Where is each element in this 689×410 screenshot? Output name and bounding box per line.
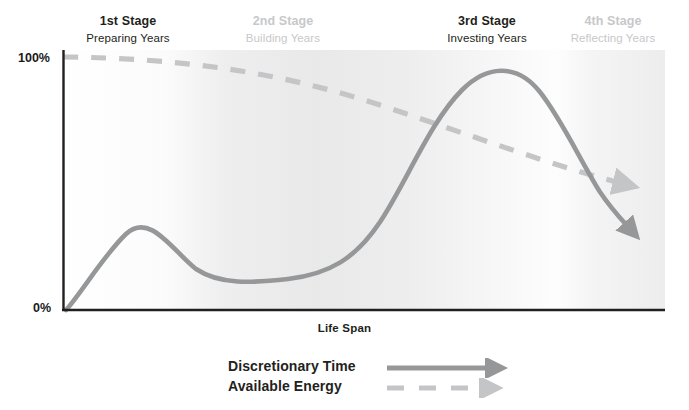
legend-item-available-energy: Available Energy	[228, 378, 528, 398]
plot-area	[0, 0, 689, 340]
legend-item-discretionary-time: Discretionary Time	[228, 358, 528, 378]
chart-legend: Discretionary Time Available Energy	[228, 358, 528, 398]
legend-label-available-energy: Available Energy	[228, 378, 342, 394]
y-axis-tick-0: 0%	[33, 301, 51, 315]
solid-arrow-right-icon	[385, 358, 513, 378]
y-axis-tick-100: 100%	[18, 51, 50, 65]
legend-label-discretionary-time: Discretionary Time	[228, 358, 356, 374]
life-span-chart: 1st Stage Preparing Years 2nd Stage Buil…	[0, 0, 689, 410]
dashed-arrow-right-icon	[385, 378, 513, 398]
plot-background-band	[63, 50, 665, 311]
x-axis-title: Life Span	[0, 322, 689, 334]
